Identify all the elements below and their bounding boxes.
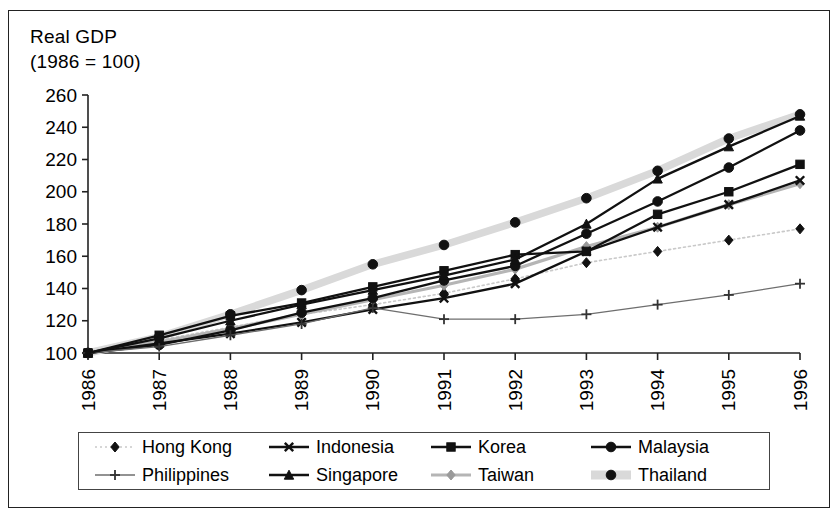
y-tick-label: 240 bbox=[45, 117, 77, 138]
y-tick-label: 200 bbox=[45, 181, 77, 202]
y-tick-label: 100 bbox=[45, 343, 77, 364]
x-tick-label: 1993 bbox=[576, 369, 597, 411]
data-series-group bbox=[83, 110, 805, 358]
legend-label: Korea bbox=[478, 437, 526, 458]
data-point bbox=[653, 246, 661, 256]
data-point bbox=[439, 314, 449, 324]
legend-label: Thailand bbox=[638, 465, 707, 486]
data-point bbox=[368, 260, 378, 270]
legend-swatch-square-icon bbox=[429, 438, 473, 456]
data-point bbox=[297, 285, 307, 295]
x-tick-label: 1996 bbox=[790, 369, 811, 411]
legend-label: Indonesia bbox=[316, 437, 394, 458]
x-tick-label: 1988 bbox=[220, 369, 241, 411]
data-point bbox=[297, 308, 307, 318]
legend-item-singapore[interactable]: Singapore bbox=[267, 465, 429, 486]
legend-item-taiwan[interactable]: Taiwan bbox=[429, 465, 589, 486]
legend-label: Hong Kong bbox=[142, 437, 232, 458]
legend-label: Taiwan bbox=[478, 465, 534, 486]
legend-item-thailand[interactable]: Thailand bbox=[589, 465, 769, 486]
legend-item-indonesia[interactable]: Indonesia bbox=[267, 437, 429, 458]
data-point bbox=[510, 218, 520, 228]
data-point bbox=[439, 240, 449, 250]
data-point bbox=[796, 224, 804, 234]
y-axis: 100120140160180200220240260 bbox=[45, 85, 88, 364]
legend-label: Philippines bbox=[142, 465, 229, 486]
legend-swatch-circle-icon bbox=[589, 438, 633, 456]
data-point bbox=[653, 300, 663, 310]
x-tick-label: 1992 bbox=[505, 369, 526, 411]
data-point bbox=[653, 210, 661, 218]
data-point bbox=[582, 193, 592, 203]
x-axis: 1986198719881989199019911992199319941995… bbox=[78, 353, 811, 411]
legend: Hong KongIndonesiaKoreaMalaysiaPhilippin… bbox=[78, 432, 770, 490]
x-tick-label: 1987 bbox=[149, 369, 170, 411]
y-tick-label: 160 bbox=[45, 246, 77, 267]
legend-swatch-triangle-icon bbox=[267, 466, 311, 484]
legend-swatch-circle-icon bbox=[589, 466, 633, 484]
y-tick-label: 120 bbox=[45, 310, 77, 331]
data-point bbox=[368, 293, 378, 303]
data-point bbox=[582, 258, 590, 268]
legend-grid: Hong KongIndonesiaKoreaMalaysiaPhilippin… bbox=[79, 433, 769, 489]
x-tick-label: 1991 bbox=[434, 369, 455, 411]
data-point bbox=[510, 314, 520, 324]
data-point bbox=[724, 290, 734, 300]
legend-swatch-diamond-icon bbox=[429, 466, 473, 484]
x-tick-label: 1995 bbox=[718, 369, 739, 411]
legend-item-korea[interactable]: Korea bbox=[429, 437, 589, 458]
legend-swatch-diamond-icon bbox=[93, 438, 137, 456]
legend-label: Malaysia bbox=[638, 437, 709, 458]
legend-label: Singapore bbox=[316, 465, 398, 486]
series-line bbox=[88, 164, 800, 353]
data-point bbox=[582, 247, 590, 255]
data-point bbox=[724, 163, 734, 173]
x-tick-label: 1990 bbox=[362, 369, 383, 411]
data-point bbox=[725, 188, 733, 196]
y-tick-label: 260 bbox=[45, 85, 77, 106]
x-tick-label: 1994 bbox=[647, 369, 668, 412]
data-point bbox=[582, 219, 591, 228]
legend-swatch-plus-icon bbox=[93, 466, 137, 484]
chart-figure: Real GDP (1986 = 100) 100120140160180200… bbox=[0, 0, 840, 518]
data-point bbox=[581, 309, 591, 319]
x-tick-label: 1989 bbox=[291, 369, 312, 411]
y-tick-label: 180 bbox=[45, 214, 77, 235]
data-point bbox=[582, 229, 592, 239]
data-point bbox=[796, 160, 804, 168]
x-tick-label: 1986 bbox=[78, 369, 99, 411]
data-point bbox=[653, 197, 663, 207]
data-point bbox=[725, 235, 733, 245]
legend-item-philippines[interactable]: Philippines bbox=[93, 465, 267, 486]
data-point bbox=[795, 279, 805, 289]
y-tick-label: 140 bbox=[45, 278, 77, 299]
y-tick-label: 220 bbox=[45, 149, 77, 170]
legend-item-hong-kong[interactable]: Hong Kong bbox=[93, 437, 267, 458]
data-point bbox=[795, 126, 805, 136]
legend-item-malaysia[interactable]: Malaysia bbox=[589, 437, 769, 458]
legend-swatch-x-icon bbox=[267, 438, 311, 456]
